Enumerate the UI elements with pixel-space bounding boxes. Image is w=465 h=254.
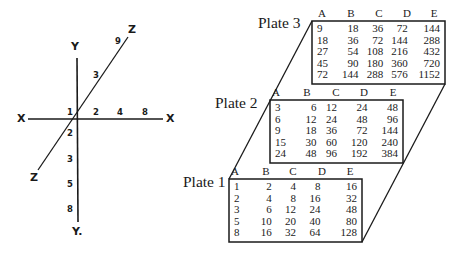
column-header: A [312,7,332,19]
z-tick: 9 [115,36,121,46]
plate-2-label: Plate 2 [215,94,258,112]
y-tick: 8 [67,204,73,214]
cell: 36 [359,23,384,35]
z-axis [38,37,128,170]
cell: 12 [317,102,337,114]
cell: 96 [317,148,337,160]
plate-3-table: 9183672144 183672144288 2754108216432 45… [316,23,440,81]
plate-1-table: 124816 2481632 36122448 510204080 816326… [233,181,357,239]
column-header: C [326,86,346,98]
column-header: D [397,7,417,19]
cell: 24 [274,148,296,160]
cell: 72 [383,23,408,35]
y-axis-label-bottom: Y. [72,225,82,238]
x-tick: 4 [117,107,123,117]
cell: 144 [334,69,359,81]
cell: 9 [316,23,334,35]
plate-2-table: 36122448 612244896 9183672144 1530601202… [274,102,398,160]
cell: 144 [408,23,440,35]
column-header: E [383,86,403,98]
z-axis-label-bottom: Z [30,171,38,184]
column-header: B [297,86,317,98]
cell: 8 [296,181,320,193]
plate-3-label: Plate 3 [258,14,301,32]
y-tick: 5 [67,179,73,189]
column-header: B [341,7,361,19]
cell: 576 [383,69,408,81]
table-row: 244896192384 [274,148,398,160]
cell: 18 [334,23,359,35]
cell: 48 [296,148,316,160]
x-axis-label-left: X [17,112,25,125]
cell: 1 [233,181,247,193]
column-header: D [312,165,332,177]
cell: 24 [337,102,368,114]
cell: 8 [233,227,247,239]
table-row: 8163264128 [233,227,357,239]
x-tick: 2 [93,107,99,117]
plate-1: A B C D E 124816 2481632 36122448 510204… [229,179,362,242]
z-axis-label-top: Z [128,23,136,36]
x-axis-label-right: X [166,112,174,125]
table-row: 36122448 [274,102,398,114]
y-tick: 2 [67,128,73,138]
cell: 1152 [408,69,440,81]
z-tick: 3 [93,70,99,80]
plate-2: A B C D E 36122448 612244896 9183672144 … [270,100,403,163]
y-tick: 3 [67,154,73,164]
cell: 2 [247,181,271,193]
plate-1-label: Plate 1 [183,173,226,191]
cell: 48 [367,102,398,114]
cell: 4 [272,181,296,193]
column-header: C [283,165,303,177]
column-header: D [354,86,374,98]
column-header: C [369,7,389,19]
table-row: 721442885761152 [316,69,440,81]
cell: 64 [296,227,320,239]
y-axis [77,58,78,222]
table-row: 124816 [233,181,357,193]
plate-3: A B C D E 9183672144 183672144288 275410… [312,21,445,84]
cell: 72 [316,69,334,81]
origin-tick: 1 [67,107,73,117]
cell: 384 [367,148,398,160]
cell: 192 [337,148,368,160]
cell: 6 [296,102,316,114]
x-tick: 8 [142,107,148,117]
column-header: A [225,165,245,177]
column-header: B [256,165,276,177]
cell: 288 [359,69,384,81]
column-header: E [340,165,360,177]
column-header: E [424,7,444,19]
y-axis-label-top: Y [71,40,79,53]
cell: 128 [320,227,357,239]
table-row: 9183672144 [316,23,440,35]
cell: 3 [274,102,296,114]
cell: 32 [272,227,296,239]
cell: 16 [247,227,271,239]
cell: 16 [320,181,357,193]
column-header: A [266,86,286,98]
